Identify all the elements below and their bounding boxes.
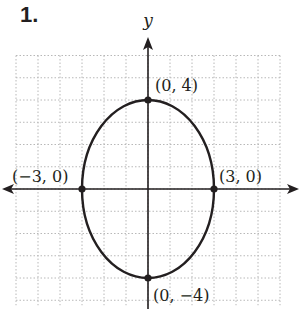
coordinate-plane: y (0, 4) (−3, 0) (3, 0) (0, −4) bbox=[0, 0, 301, 309]
ellipse-figure: 1. y (0, 4) (−3, 0) (3, 0) (0, −4) bbox=[0, 0, 301, 309]
problem-number: 1. bbox=[20, 2, 38, 28]
point-labels: (0, 4) (−3, 0) (3, 0) (0, −4) bbox=[12, 76, 262, 305]
vertex-point bbox=[144, 96, 151, 103]
label-right-vertex: (3, 0) bbox=[219, 167, 262, 186]
vertex-point bbox=[78, 185, 85, 192]
label-bottom-vertex: (0, −4) bbox=[153, 286, 209, 305]
axes: y bbox=[2, 10, 299, 309]
vertex-point bbox=[210, 185, 217, 192]
vertex-point bbox=[144, 274, 151, 281]
label-top-vertex: (0, 4) bbox=[155, 76, 198, 95]
label-left-vertex: (−3, 0) bbox=[12, 167, 68, 186]
y-axis-label: y bbox=[142, 10, 153, 30]
